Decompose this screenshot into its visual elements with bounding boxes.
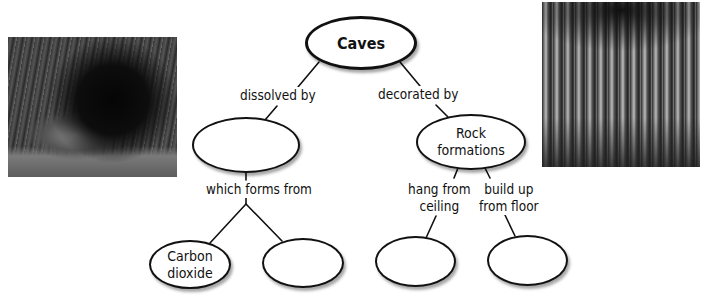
connector-hang-node [426,216,436,238]
node-rock-formations-line1: Rock [456,125,486,142]
link-label-hang-from-ceiling: hang from ceiling [408,181,471,215]
node-carbon-dioxide-line2: dioxide [167,265,212,282]
node-building-blank[interactable] [487,235,568,286]
node-caves: Caves [305,16,417,70]
connector-rock-hang [454,168,458,178]
link-label-build-up-from-floor: build up from floor [479,181,539,215]
link-label-hang-line1: hang from [408,181,471,198]
node-hanging-blank[interactable] [375,236,456,287]
connector-dissolved-node [265,106,277,120]
node-caves-label: Caves [337,35,385,52]
link-label-dissolved-by: dissolved by [240,87,316,104]
connector-decorated-node [436,105,448,117]
connector-build-node [505,215,515,236]
node-carbon-dioxide-line1: Carbon [167,248,212,265]
node-carbon-dioxide: Carbon dioxide [149,240,231,289]
link-label-decorated-by: decorated by [378,86,458,103]
link-label-which-forms-from: which forms from [206,181,312,198]
connector-caves-dissolved [298,62,319,87]
node-source-blank[interactable] [262,238,344,288]
link-label-hang-line2: ceiling [419,198,459,215]
connector-fork-left [210,204,246,243]
node-dissolver-blank[interactable] [192,117,300,173]
node-rock-formations: Rock formations [416,114,526,170]
node-rock-formations-line2: formations [437,142,505,159]
connector-fork-right [246,204,282,241]
connector-caves-decorated [400,62,420,86]
connector-rock-build [485,168,490,178]
link-label-build-line2: from floor [479,198,539,215]
link-label-build-line1: build up [484,181,533,198]
concept-map: Caves Rock formations Carbon dioxide dis… [0,0,708,305]
